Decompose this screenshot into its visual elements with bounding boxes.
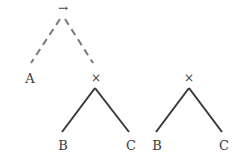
edge-times-to-b [62, 88, 95, 132]
edge-tree2-times-to-c [189, 88, 222, 132]
dashed-edge-root-to-times [65, 19, 93, 63]
edge-tree2-times-to-b [156, 88, 189, 132]
leaf-a-label: A [24, 71, 35, 86]
edge-times-to-c [95, 88, 129, 132]
times-node-label: × [91, 71, 101, 85]
tree2-leaf-b-label: B [152, 138, 162, 153]
root-arrow-label: → [58, 1, 68, 15]
leaf-b-label: B [58, 138, 68, 153]
tree2-times-label: × [184, 71, 194, 85]
diagram-canvas: → A × B C × B C [0, 0, 239, 155]
dashed-edge-root-to-a [31, 19, 60, 63]
tree2-leaf-c-label: C [219, 138, 229, 153]
tree-diagram: → A × B C × B C [0, 0, 239, 155]
leaf-c-label: C [126, 138, 136, 153]
